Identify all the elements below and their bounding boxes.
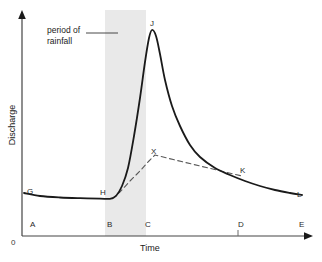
- x-axis-arrow-icon: [304, 232, 313, 240]
- curve-point-label-k: K: [240, 166, 245, 175]
- curve-point-label-l: L: [297, 190, 301, 199]
- curve-point-label-j: J: [150, 19, 154, 28]
- x-tick-label-d: D: [238, 220, 244, 229]
- curve-point-label-h: H: [100, 188, 106, 197]
- x-tick-label-e: E: [299, 220, 304, 229]
- x-tick-label-a: A: [30, 220, 35, 229]
- rainfall-shaded-band: [105, 10, 146, 236]
- rainfall-annotation: period of rainfall: [47, 25, 80, 47]
- x-tick-label-b: B: [107, 220, 112, 229]
- x-axis-label: Time: [140, 243, 160, 253]
- rainfall-annotation-line2: rainfall: [47, 36, 80, 47]
- data-series-group: [24, 30, 302, 199]
- x-tick-label-c: C: [145, 220, 151, 229]
- hydrograph-figure: period of rainfall Discharge Time 0 ABCD…: [0, 0, 322, 262]
- y-axis-arrow-icon: [18, 10, 26, 19]
- y-axis-label: Discharge: [7, 95, 17, 155]
- curve-point-label-g: G: [27, 187, 33, 196]
- curve-point-label-x: X: [151, 147, 156, 156]
- rainfall-annotation-line1: period of: [47, 25, 80, 36]
- origin-label: 0: [11, 238, 15, 247]
- rainfall-band-group: [105, 10, 146, 236]
- discharge-curve: [24, 30, 302, 199]
